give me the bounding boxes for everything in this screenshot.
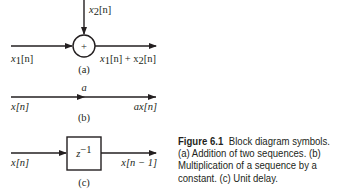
delay-diagram: z−1 x[n] x[n − 1] (c) <box>10 137 157 189</box>
figure-number: Figure 6.1 <box>178 136 223 147</box>
label-b: (b) <box>78 112 91 124</box>
input1-label: x1[n] <box>10 53 33 66</box>
mult-output-label: ax[n] <box>134 101 157 112</box>
figure-caption: Figure 6.1Block diagram symbols. (a) Add… <box>178 136 341 185</box>
delay-block-label: z−1 <box>75 144 91 159</box>
adder-diagram: x2[n] x1[n] + x1[n] + x2[n] (a) <box>10 0 156 76</box>
delay-input-label: x[n] <box>10 157 29 168</box>
label-c: (c) <box>78 177 90 189</box>
multiplier-diagram: a x[n] ax[n] (b) <box>10 82 157 124</box>
delay-output-label: x[n − 1] <box>120 157 157 168</box>
output-arrowhead <box>148 94 156 100</box>
mult-input-label: x[n] <box>10 101 29 112</box>
gain-label: a <box>81 82 86 93</box>
sum-output-label: x1[n] + x2[n] <box>99 53 156 66</box>
input2-label: x2[n] <box>88 4 111 17</box>
adder-plus-symbol: + <box>81 41 87 52</box>
label-a: (a) <box>78 64 90 76</box>
gain-arrowhead <box>77 94 85 100</box>
